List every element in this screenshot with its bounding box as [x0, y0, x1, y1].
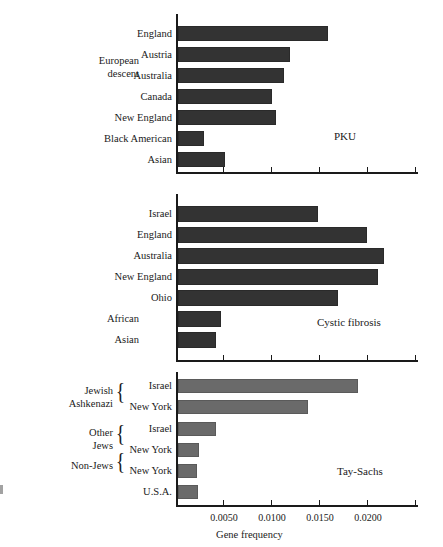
bar-row	[178, 400, 308, 414]
bar-australia	[178, 68, 284, 83]
bar-row	[178, 68, 284, 83]
brace-jewish-ashkenazi: {	[116, 380, 125, 403]
group-label-jewish-line2: Ashkenazi	[69, 397, 113, 410]
bar-australia	[178, 248, 384, 264]
category-label-new-york-ashkenazi: New York	[129, 401, 172, 412]
x-tick-label-0050: 0.0050	[210, 512, 238, 523]
bar-usa-nonjews	[178, 485, 198, 499]
bar-new-england	[178, 110, 276, 125]
category-label-canada: Canada	[141, 91, 173, 102]
bar-row	[178, 206, 318, 222]
plot-area-cystic-fibrosis: Cystic fibrosis	[176, 194, 418, 362]
bar-israel-other	[178, 422, 216, 436]
category-label-asian: Asian	[148, 154, 173, 165]
category-label-israel-other: Israel	[149, 423, 172, 434]
page-edge-mark	[0, 485, 3, 494]
plot-area-tay-sachs: Tay-Sachs	[176, 372, 418, 507]
panel-title-cystic-fibrosis: Cystic fibrosis	[317, 316, 381, 328]
bar-row	[178, 47, 290, 62]
bar-new-york-nonjews	[178, 464, 197, 478]
bar-row	[178, 110, 276, 125]
gene-frequency-figure: European descent England Austria Austral…	[0, 0, 443, 547]
panel-title-tay-sachs: Tay-Sachs	[337, 465, 383, 477]
bar-row	[178, 227, 367, 243]
brace-non-jews: {	[116, 450, 125, 473]
bar-new-york-other	[178, 443, 199, 457]
category-label-new-york-other: New York	[129, 444, 172, 455]
bar-ohio	[178, 290, 338, 306]
bar-row	[178, 269, 378, 285]
x-tick-label-0100: 0.0100	[258, 512, 286, 523]
bar-new-england	[178, 269, 378, 285]
bar-england	[178, 26, 328, 41]
bar-row	[178, 422, 216, 436]
x-tick-label-0200: 0.0200	[354, 512, 382, 523]
bar-african	[178, 311, 221, 327]
category-label-austria: Austria	[141, 49, 172, 60]
bar-row	[178, 485, 198, 499]
category-label-black-american: Black American	[104, 133, 172, 144]
category-label-new-england: New England	[115, 271, 172, 282]
category-label-australia: Australia	[134, 250, 173, 261]
plot-area-pku: PKU	[176, 14, 418, 174]
bar-israel	[178, 206, 318, 222]
bar-canada	[178, 89, 272, 104]
group-label-asian: Asian	[115, 334, 140, 346]
bar-row	[178, 379, 358, 393]
bars-pku	[178, 14, 418, 174]
bars-cystic-fibrosis	[178, 194, 418, 362]
bar-row	[178, 131, 204, 146]
group-label-jewish-ashkenazi: Jewish Ashkenazi	[69, 384, 113, 410]
bar-row	[178, 290, 338, 306]
group-label-african: African	[107, 313, 139, 325]
bar-row	[178, 332, 216, 348]
bar-asian	[178, 152, 225, 167]
category-label-israel: Israel	[149, 208, 172, 219]
bar-austria	[178, 47, 290, 62]
group-label-non-jews: Non-Jews	[71, 460, 113, 472]
bar-row	[178, 464, 197, 478]
group-label-other-line2: Jews	[89, 439, 113, 452]
category-label-new-york-nonjews: New York	[129, 465, 172, 476]
bar-row	[178, 26, 328, 41]
category-label-australia: Australia	[134, 70, 173, 81]
bar-black-american	[178, 131, 204, 146]
bar-row	[178, 443, 199, 457]
bar-row	[178, 152, 225, 167]
bar-row	[178, 248, 384, 264]
panel-cystic-fibrosis: Israel England Australia New England Ohi…	[0, 194, 443, 362]
panel-tay-sachs: Jewish Ashkenazi { Other Jews { Non-Jews…	[0, 372, 443, 507]
category-label-usa-nonjews: U.S.A.	[143, 486, 172, 497]
panel-pku: European descent England Austria Austral…	[0, 14, 443, 174]
category-label-ohio: Ohio	[151, 292, 172, 303]
bar-new-york-ashkenazi	[178, 400, 308, 414]
brace-other-jews: {	[116, 422, 125, 445]
bar-israel-ashkenazi	[178, 379, 358, 393]
x-tick-label-0150: 0.0150	[306, 512, 334, 523]
category-label-new-england: New England	[115, 112, 172, 123]
group-label-other-jews: Other Jews	[89, 426, 113, 452]
bar-england	[178, 227, 367, 243]
bars-tay-sachs	[178, 372, 418, 507]
bar-row	[178, 311, 221, 327]
bar-asian	[178, 332, 216, 348]
bar-row	[178, 89, 272, 104]
panel-title-pku: PKU	[334, 130, 356, 142]
x-axis-title: Gene frequency	[0, 529, 443, 540]
x-axis-title-text: Gene frequency	[216, 529, 283, 540]
group-label-european-line1: European	[99, 54, 139, 67]
group-label-jewish-line1: Jewish	[69, 384, 113, 397]
category-label-england: England	[137, 229, 172, 240]
group-label-other-line1: Other	[89, 426, 113, 439]
category-label-england: England	[137, 28, 172, 39]
category-label-israel-ashkenazi: Israel	[149, 380, 172, 391]
